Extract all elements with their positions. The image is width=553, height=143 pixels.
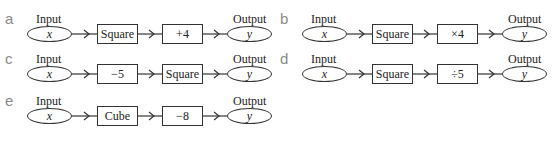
input-ellipse: x [302, 66, 347, 82]
step2-box: +4 [162, 24, 203, 44]
output-ellipse: y [227, 26, 272, 42]
output-ellipse: y [502, 66, 547, 82]
input-ellipse: x [27, 26, 72, 42]
output-ellipse: y [502, 26, 547, 42]
function-machine-c: c Input Output x −5 Square y [0, 49, 278, 93]
step1-box: Square [372, 64, 413, 84]
input-ellipse: x [27, 108, 72, 124]
function-machine-d: d Input Output x Square ÷5 y [275, 49, 553, 93]
output-ellipse: y [227, 108, 272, 124]
step2-box: ÷5 [437, 64, 478, 84]
input-ellipse: x [302, 26, 347, 42]
step2-box: −8 [162, 106, 203, 126]
function-machine-a: a Input Output x Square +4 y [0, 9, 278, 53]
input-ellipse: x [27, 66, 72, 82]
step2-box: ×4 [437, 24, 478, 44]
function-machine-b: b Input Output x Square ×4 y [275, 9, 553, 53]
function-machine-e: e Input Output x Cube −8 y [0, 91, 278, 135]
step1-box: Square [97, 24, 138, 44]
step1-box: Square [372, 24, 413, 44]
step1-box: Cube [97, 106, 138, 126]
step2-box: Square [162, 64, 203, 84]
step1-box: −5 [97, 64, 138, 84]
output-ellipse: y [227, 66, 272, 82]
